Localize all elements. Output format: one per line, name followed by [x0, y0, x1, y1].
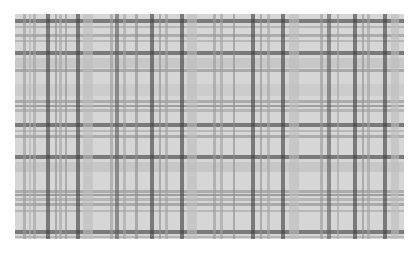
plaid-fabric-image	[15, 14, 404, 239]
horizontal-stripe	[15, 135, 404, 138]
vertical-stripe	[267, 14, 270, 239]
vertical-stripe	[251, 14, 255, 239]
vertical-stripe	[213, 14, 216, 239]
vertical-stripe	[46, 14, 50, 239]
vertical-stripe	[260, 14, 262, 239]
vertical-stripe	[33, 14, 36, 239]
horizontal-stripe	[15, 198, 404, 201]
vertical-stripe	[76, 14, 80, 239]
vertical-stripe	[383, 14, 387, 239]
horizontal-stripe	[15, 84, 404, 96]
horizontal-stripe	[15, 155, 404, 159]
horizontal-stripe	[15, 40, 404, 42]
horizontal-stripe	[15, 109, 404, 112]
horizontal-stripe	[15, 203, 404, 206]
horizontal-stripe	[15, 51, 404, 55]
vertical-stripe	[367, 14, 370, 239]
vertical-stripe	[180, 14, 184, 239]
horizontal-stripe	[15, 34, 404, 37]
vertical-stripe	[65, 14, 67, 239]
vertical-stripe	[165, 14, 168, 239]
vertical-stripe	[281, 14, 285, 239]
vertical-stripe	[59, 14, 62, 239]
horizontal-stripe	[15, 194, 404, 196]
vertical-stripe	[135, 14, 138, 239]
horizontal-stripe	[15, 190, 404, 193]
vertical-stripe	[220, 14, 223, 239]
vertical-stripe	[123, 14, 126, 239]
vertical-stripe	[337, 14, 339, 239]
horizontal-stripe	[15, 58, 404, 68]
vertical-stripe	[29, 14, 31, 239]
vertical-stripe	[289, 14, 299, 239]
horizontal-stripe	[15, 130, 404, 132]
vertical-stripe	[159, 14, 161, 239]
vertical-stripe	[55, 14, 57, 239]
vertical-stripe	[233, 14, 235, 239]
horizontal-stripe	[15, 105, 404, 107]
vertical-stripe	[320, 14, 323, 239]
vertical-stripe	[187, 14, 197, 239]
vertical-stripe	[391, 14, 399, 239]
vertical-stripe	[353, 14, 357, 239]
horizontal-stripe	[15, 230, 404, 234]
vertical-stripe	[83, 14, 93, 239]
horizontal-stripe	[15, 210, 404, 212]
vertical-stripe	[110, 14, 113, 239]
vertical-stripe	[150, 14, 154, 239]
horizontal-stripe	[15, 162, 404, 172]
vertical-stripe	[327, 14, 331, 239]
horizontal-stripe	[15, 236, 404, 238]
vertical-stripe	[23, 14, 26, 239]
horizontal-stripe	[15, 100, 404, 103]
horizontal-stripe	[15, 26, 404, 28]
horizontal-stripe	[15, 69, 404, 72]
horizontal-stripe	[15, 19, 404, 23]
horizontal-stripe	[15, 123, 404, 127]
vertical-stripe	[362, 14, 364, 239]
vertical-stripe	[115, 14, 119, 239]
